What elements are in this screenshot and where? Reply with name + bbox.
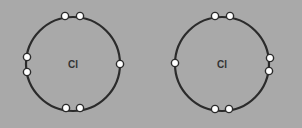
electron-icon [61, 12, 68, 19]
electron-icon [23, 53, 30, 60]
chlorine-atoms-diagram: Cl Cl [0, 0, 302, 128]
electron-icon [265, 67, 272, 74]
atom-label-right: Cl [217, 59, 227, 70]
atom-right: Cl [171, 12, 273, 112]
electron-icon [226, 12, 233, 19]
atom-label-left: Cl [68, 59, 78, 70]
electron-icon [211, 12, 218, 19]
electron-icon [171, 59, 178, 66]
electron-icon [266, 54, 273, 61]
electron-icon [62, 104, 69, 111]
electron-icon [76, 12, 83, 19]
electron-icon [225, 105, 232, 112]
electron-icon [23, 68, 30, 75]
electron-icon [76, 104, 83, 111]
atom-left: Cl [23, 12, 123, 111]
electron-icon [211, 105, 218, 112]
electron-icon [116, 60, 123, 67]
